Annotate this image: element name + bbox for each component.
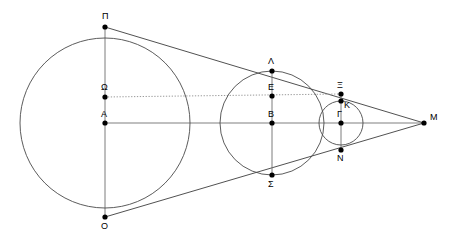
point-label-Xi: Ξ: [337, 80, 343, 90]
point-label-G: Γ: [337, 109, 342, 119]
point-label-A: A: [101, 109, 107, 119]
point-label-B: B: [268, 109, 274, 119]
point-label-K: K: [344, 100, 350, 110]
point-E: [269, 93, 274, 98]
diagram-canvas: ΠΩAOΛEBΣΞKΓNM: [0, 0, 450, 243]
point-P: [102, 24, 107, 29]
segment-chord-Omega-Xi: [105, 94, 341, 97]
point-label-N: N: [337, 153, 344, 163]
point-label-Omega: Ω: [101, 82, 108, 92]
point-label-L: Λ: [268, 56, 274, 66]
point-layer: [102, 24, 426, 219]
point-B: [269, 120, 274, 125]
point-K: [338, 98, 343, 103]
point-Xi: [338, 91, 343, 96]
point-O: [102, 214, 107, 219]
geometry-diagram: ΠΩAOΛEBΣΞKΓNM: [0, 0, 450, 243]
point-label-P: Π: [102, 11, 109, 21]
point-N: [338, 147, 343, 152]
segment-tangent-P-M: [105, 27, 424, 123]
point-label-E: E: [268, 82, 274, 92]
point-Omega: [102, 94, 107, 99]
point-S: [269, 172, 274, 177]
point-L: [269, 68, 274, 73]
point-label-O: O: [101, 221, 108, 231]
segment-tangent-O-M: [105, 123, 424, 217]
segment-layer: [105, 27, 424, 217]
point-label-S: Σ: [268, 179, 274, 189]
point-M: [421, 120, 426, 125]
label-layer: ΠΩAOΛEBΣΞKΓNM: [101, 11, 438, 231]
point-A: [102, 120, 107, 125]
point-label-M: M: [430, 112, 438, 122]
point-G: [338, 120, 343, 125]
